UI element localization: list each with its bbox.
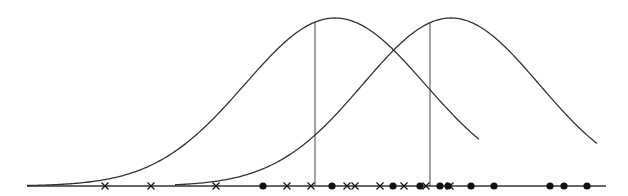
dot-marker <box>259 182 266 189</box>
dot-marker <box>490 182 497 189</box>
dot-marker <box>560 182 567 189</box>
mean-lines <box>315 22 430 186</box>
dot-marker <box>546 182 553 189</box>
gaussian-curves <box>27 18 597 186</box>
mixture-diagram <box>0 0 628 196</box>
dot-marker <box>467 182 474 189</box>
dot-marker <box>583 182 590 189</box>
dot-marker <box>416 182 423 189</box>
gaussian-2-curve <box>27 18 479 186</box>
dot-marker <box>328 182 335 189</box>
dot-marker <box>444 182 451 189</box>
dot-marker <box>389 182 396 189</box>
dot-marker <box>436 182 443 189</box>
